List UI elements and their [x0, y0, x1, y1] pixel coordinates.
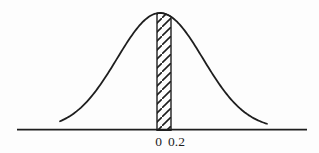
hatched-area-strip: [157, 13, 171, 130]
normal-curve-figure: 0 0.2: [0, 0, 319, 153]
bell-curve-chart: 0 0.2: [0, 0, 319, 153]
x-tick-label-zero: 0: [155, 134, 162, 149]
x-tick-label-point-two: 0.2: [168, 134, 185, 149]
